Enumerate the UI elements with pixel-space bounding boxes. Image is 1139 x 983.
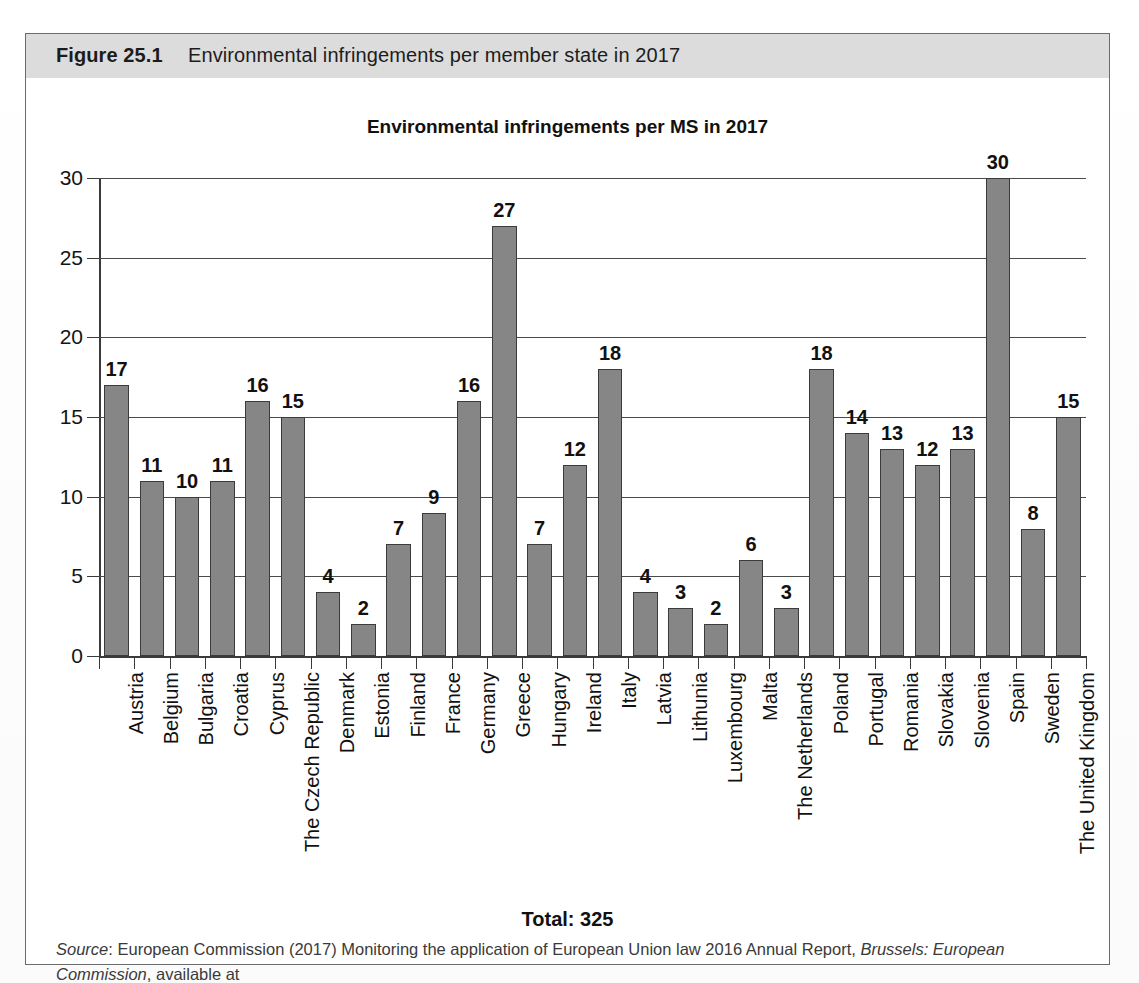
bar-group: 3	[668, 178, 693, 656]
bar-series: 1711101116154279162771218432631814131213…	[99, 178, 1086, 656]
x-axis-category-label: Latvia	[653, 672, 676, 725]
x-axis-tick	[1086, 656, 1087, 669]
bar-group: 13	[950, 178, 975, 656]
x-axis-tick	[1051, 656, 1052, 669]
x-axis-tick	[416, 656, 417, 669]
bar-value-label: 15	[282, 390, 304, 413]
bar-value-label: 4	[640, 565, 651, 588]
bar[interactable]	[598, 369, 623, 656]
bar[interactable]	[386, 544, 411, 656]
x-axis-tick	[980, 656, 981, 669]
y-axis-tick	[87, 656, 99, 657]
bar[interactable]	[1021, 529, 1046, 656]
x-axis-tick	[452, 656, 453, 669]
x-axis-tick	[769, 656, 770, 669]
x-axis-category-label: Greece	[512, 672, 535, 738]
x-axis-tick	[99, 656, 100, 669]
bar[interactable]	[1056, 417, 1081, 656]
x-axis-category-label: France	[442, 672, 465, 734]
bar[interactable]	[845, 433, 870, 656]
bar[interactable]	[633, 592, 658, 656]
x-axis-tick	[170, 656, 171, 669]
bar[interactable]	[104, 385, 129, 656]
y-axis-tick	[87, 576, 99, 577]
y-axis-label: 0	[71, 644, 83, 668]
bar[interactable]	[739, 560, 764, 656]
y-axis-tick	[87, 258, 99, 259]
bar-group: 15	[281, 178, 306, 656]
x-axis-category-label: Hungary	[548, 672, 571, 748]
bar-value-label: 12	[564, 438, 586, 461]
x-axis-tick	[1016, 656, 1017, 669]
bar[interactable]	[492, 226, 517, 656]
x-axis-tick	[945, 656, 946, 669]
x-axis-category-label: Portugal	[865, 672, 888, 747]
bar[interactable]	[809, 369, 834, 656]
bar-value-label: 13	[881, 422, 903, 445]
figure-container: Figure 25.1 Environmental infringements …	[25, 33, 1110, 965]
bar[interactable]	[774, 608, 799, 656]
bar[interactable]	[175, 497, 200, 656]
bar[interactable]	[563, 465, 588, 656]
x-axis-category-label: Malta	[759, 672, 782, 721]
bar-value-label: 30	[987, 151, 1009, 174]
bar[interactable]	[986, 178, 1011, 656]
x-axis-category-label: Croatia	[230, 672, 253, 736]
x-axis-category-label: Bulgaria	[195, 672, 218, 745]
bar[interactable]	[704, 624, 729, 656]
x-axis-category-label: Romania	[900, 672, 923, 752]
x-axis-tick	[804, 656, 805, 669]
bar-group: 14	[845, 178, 870, 656]
bar[interactable]	[140, 481, 165, 656]
y-axis-label: 15	[60, 405, 83, 429]
bar-value-label: 16	[246, 374, 268, 397]
bar-value-label: 18	[599, 342, 621, 365]
x-axis-category-label: Italy	[618, 672, 641, 709]
x-axis-category-label: Finland	[407, 672, 430, 738]
bar-value-label: 18	[810, 342, 832, 365]
bar-value-label: 7	[534, 517, 545, 540]
bar[interactable]	[668, 608, 693, 656]
bar[interactable]	[245, 401, 270, 656]
bar-group: 7	[386, 178, 411, 656]
bar-value-label: 3	[781, 581, 792, 604]
bar-group: 2	[704, 178, 729, 656]
bar-group: 18	[809, 178, 834, 656]
bar[interactable]	[950, 449, 975, 656]
bar-value-label: 10	[176, 470, 198, 493]
bar[interactable]	[422, 513, 447, 656]
bar-group: 4	[633, 178, 658, 656]
x-axis-tick	[381, 656, 382, 669]
bar[interactable]	[457, 401, 482, 656]
x-axis-category-label: The United Kingdom	[1076, 672, 1099, 854]
x-axis-tick	[698, 656, 699, 669]
bar[interactable]	[527, 544, 552, 656]
bar-group: 13	[880, 178, 905, 656]
bar-value-label: 9	[428, 486, 439, 509]
x-axis-category-label: Slovakia	[935, 672, 958, 748]
bar[interactable]	[351, 624, 376, 656]
figure-source-note: Source: European Commission (2017) Monit…	[56, 937, 1081, 983]
bar-value-label: 15	[1057, 390, 1079, 413]
bar-value-label: 17	[105, 358, 127, 381]
bar-value-label: 7	[393, 517, 404, 540]
bar[interactable]	[880, 449, 905, 656]
bar-group: 18	[598, 178, 623, 656]
bar-group: 7	[527, 178, 552, 656]
bar-value-label: 2	[358, 597, 369, 620]
bar[interactable]	[281, 417, 306, 656]
x-axis-category-label: Luxembourg	[724, 672, 747, 783]
x-axis-category-label: Ireland	[583, 672, 606, 733]
bar-value-label: 13	[951, 422, 973, 445]
x-axis-tick	[487, 656, 488, 669]
x-axis-category-label: Slovenia	[971, 672, 994, 749]
bar[interactable]	[915, 465, 940, 656]
x-axis-category-label: Cyprus	[266, 672, 289, 735]
bar[interactable]	[316, 592, 341, 656]
bar-group: 11	[210, 178, 235, 656]
y-axis-label: 30	[60, 166, 83, 190]
bar[interactable]	[210, 481, 235, 656]
x-axis-category-label: Sweden	[1041, 672, 1064, 744]
figure-caption: Figure 25.1 Environmental infringements …	[56, 44, 680, 67]
bar-value-label: 3	[675, 581, 686, 604]
